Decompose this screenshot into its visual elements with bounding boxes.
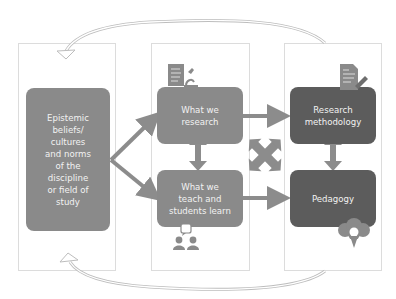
node-epistemic-label: Epistemic beliefs/ cultures and norms of… bbox=[45, 112, 91, 208]
feedback-arc-bottom bbox=[60, 253, 325, 289]
cross-arrows-icon bbox=[234, 124, 296, 186]
document-microscope-icon bbox=[166, 62, 200, 90]
document-pen-icon bbox=[335, 62, 375, 92]
node-research-methodology: Research methodology bbox=[290, 87, 376, 144]
node-epistemic-beliefs: Epistemic beliefs/ cultures and norms of… bbox=[26, 88, 110, 231]
tree-lightbulb-icon bbox=[335, 218, 373, 252]
node-pedagogy-label: Pedagogy bbox=[312, 193, 354, 205]
arrow-epistemic-to-research bbox=[111, 117, 155, 160]
node-research-label: What we research bbox=[181, 104, 219, 128]
node-what-we-teach: What we teach and students learn bbox=[157, 170, 243, 227]
feedback-arc-top bbox=[57, 20, 325, 59]
node-what-we-research: What we research bbox=[157, 87, 243, 144]
arrow-epistemic-to-teach bbox=[111, 160, 155, 196]
node-teach-label: What we teach and students learn bbox=[169, 181, 231, 217]
node-methodology-label: Research methodology bbox=[305, 104, 362, 128]
students-speech-icon bbox=[170, 222, 204, 252]
